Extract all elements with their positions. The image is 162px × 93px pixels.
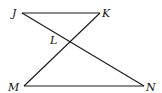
point-label-j: J — [10, 7, 17, 20]
segment-km — [24, 13, 100, 86]
point-label-n: N — [145, 81, 156, 93]
point-label-m: M — [7, 81, 20, 93]
segment-jn — [22, 13, 144, 86]
point-label-k: K — [101, 7, 111, 20]
geometry-diagram: J K L M N — [0, 0, 162, 93]
point-label-l: L — [49, 34, 57, 47]
